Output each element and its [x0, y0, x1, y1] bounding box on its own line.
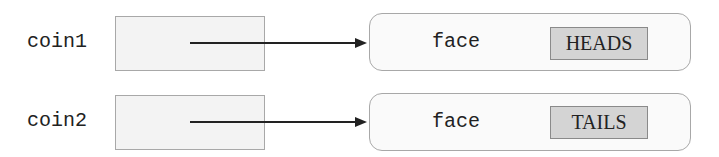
field-name: face [432, 110, 480, 133]
field-value: TAILS [550, 106, 648, 139]
variable-label: coin2 [27, 109, 87, 132]
variable-label: coin1 [27, 30, 87, 53]
field-value: HEADS [550, 27, 648, 60]
reference-arrow [190, 42, 355, 44]
reference-arrow [190, 121, 355, 123]
arrow-head-icon [355, 38, 367, 48]
arrow-head-icon [355, 117, 367, 127]
field-name: face [432, 30, 480, 53]
